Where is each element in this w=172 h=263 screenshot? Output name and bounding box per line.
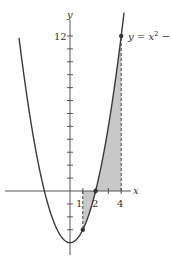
point-2-0 [93,189,97,193]
x-axis-label: x [133,185,139,196]
parabola-area-diagram: y 12 x 1 2 4 y = x2 − 4 [0,0,172,263]
shaded-region [83,36,121,230]
x-tick-label-1: 1 [76,198,82,209]
x-tick-label-4: 4 [117,198,123,209]
function-label: y = x2 − 4 [127,30,172,42]
point-1-neg3 [81,228,85,232]
parabola-curve [19,13,124,243]
y-tick-label-12: 12 [54,31,67,42]
point-4-12 [119,34,123,38]
y-axis-label: y [66,9,73,20]
x-tick-label-2: 2 [92,198,98,209]
